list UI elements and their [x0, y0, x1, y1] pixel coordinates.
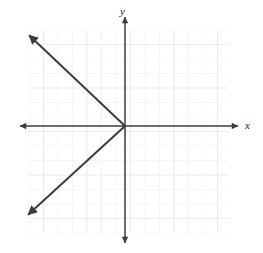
graph-figure: x y: [0, 0, 263, 253]
coordinate-plane-svg: [0, 0, 263, 253]
grid-group: [28, 30, 229, 233]
x-axis-label: x: [245, 120, 250, 131]
grid-major-lines: [28, 30, 229, 233]
y-axis-label: y: [120, 6, 125, 17]
